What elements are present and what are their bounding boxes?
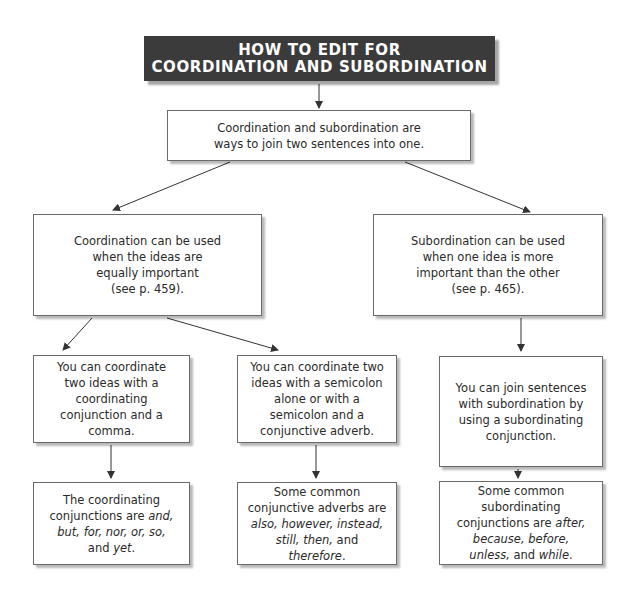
box-line: ideas with a semicolon [250,375,384,391]
box-line: conjunctive adverbs are [248,500,386,516]
box-line: You can coordinate [57,359,166,375]
box-line: subordinating [457,499,586,515]
box-line: You can join sentences [456,380,587,396]
text: . [132,541,136,555]
subordination-line: (see p. 465). [411,281,565,297]
intro-line: ways to join two sentences into one. [214,136,424,152]
subordinating-conjunctions-list-box: Some common subordinating conjunctions a… [439,481,603,565]
text: and [333,533,358,547]
diagram-title: HOW TO EDIT FOR COORDINATION AND SUBORDI… [144,36,495,81]
coordination-line: equally important [74,265,221,281]
coordination-line: (see p. 459). [74,281,221,297]
box-line: conjunctive adverb. [250,423,384,439]
title-line-1: HOW TO EDIT FOR [238,42,401,59]
coordinating-conjunctions-list-box: The coordinating conjunctions are and, b… [33,482,190,565]
box-line: coordinating [57,391,166,407]
subordination-line: when one idea is more [411,249,565,265]
box-line: The coordinating [50,492,174,508]
box-line: comma. [57,423,166,439]
italic-text: unless, [469,548,510,562]
conjunctive-adverbs-list-box: Some common conjunctive adverbs are also… [237,482,397,565]
subordinating-join-box: You can join sentences with subordinatio… [439,356,603,467]
box-line: using a subordinating [456,412,587,428]
italic-text: after, [555,516,585,530]
box-line: conjunctions are and, [50,508,174,524]
coordination-box: Coordination can be used when the ideas … [33,214,262,316]
box-line: alone or with a [250,391,384,407]
italic-text: yet [113,541,131,555]
italic-text: therefore [288,549,342,563]
box-line: still, then, and [248,532,386,548]
box-line: unless, and while. [457,547,586,563]
italic-text: also, however, instead, [251,517,383,531]
text: and [510,548,539,562]
box-line: Some common [457,483,586,499]
subordination-line: Subordination can be used [411,233,565,249]
box-line: semicolon and a [250,407,384,423]
box-line: conjunctions are after, [457,515,586,531]
box-line: conjunction. [456,428,587,444]
coordination-line: Coordination can be used [74,233,221,249]
text: and [88,541,113,555]
intro-line: Coordination and subordination are [214,120,424,136]
italic-text: while [539,548,569,562]
box-line: but, for, nor, or, so, [50,524,174,540]
italic-text: still, then, [276,533,333,547]
title-line-2: COORDINATION AND SUBORDINATION [151,59,487,76]
box-line: Some common [248,484,386,500]
text: conjunctions are [50,509,149,523]
text: . [569,548,573,562]
box-line: and yet. [50,540,174,556]
box-line: two ideas with a [57,375,166,391]
text: conjunctions are [457,516,556,530]
italic-text: and, [148,509,173,523]
box-line: also, however, instead, [248,516,386,532]
text: . [342,549,346,563]
subordination-box: Subordination can be used when one idea … [373,214,603,316]
box-line: with subordination by [456,396,587,412]
subordination-line: important than the other [411,265,565,281]
coordination-line: when the ideas are [74,249,221,265]
box-line: You can coordinate two [250,359,384,375]
italic-text: because, before, [473,532,569,546]
box-line: therefore. [248,548,386,564]
coordinating-conjunction-box: You can coordinate two ideas with a coor… [33,355,190,443]
box-line: because, before, [457,531,586,547]
semicolon-box: You can coordinate two ideas with a semi… [237,355,397,443]
intro-box: Coordination and subordination are ways … [167,110,471,161]
italic-text: but, for, nor, or, so, [57,525,166,539]
box-line: conjunction and a [57,407,166,423]
